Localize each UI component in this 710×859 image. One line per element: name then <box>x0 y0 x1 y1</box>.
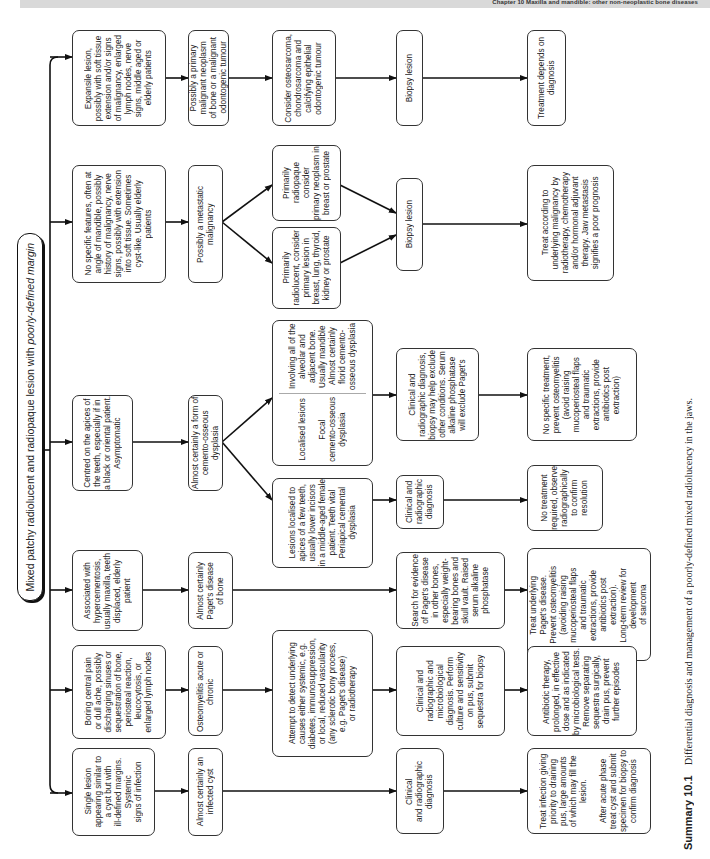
col3-presentation: Associated with hypercementosis, usually… <box>72 550 143 631</box>
col4-branch-periapical: Lesions localised to apices of a few tee… <box>272 478 373 568</box>
col4-florid-investigation: Clinical and radiographic diagnosis, bio… <box>396 348 479 441</box>
col5-branch-radiolucent: Primarily radiolucent, consider primary … <box>272 227 341 309</box>
col4-periapical-investigation: Clinical and radiographic diagnosis <box>396 475 444 529</box>
col4-periapical-management: No treatment required, observe radiograp… <box>527 465 603 531</box>
col4-presentation: Centred on the apices of the teeth, espe… <box>72 395 133 491</box>
col1-2-shared-step: Attempt to detect underlying causes eith… <box>272 630 373 757</box>
root-lesion-box: Mixed patchy radiolucent and radiopaque … <box>17 233 43 601</box>
col5-management: Treat according to underlying malignancy… <box>527 165 614 281</box>
col6-presentation: Expansile lesion, possibly with soft tis… <box>72 30 166 126</box>
figure-caption: Summary 10.1 Differential diagnosis and … <box>678 320 698 850</box>
caption-text: Differential diagnosis and management of… <box>683 398 694 765</box>
col5-presentation: No specific features, often at angle of … <box>72 165 166 283</box>
col1-diagnosis: Almost certainly an infected cyst <box>188 748 223 836</box>
col6-diagnosis: Possibly a primary malignant neoplasm of… <box>188 30 229 126</box>
focal-description: Localised lesions Focal cemento-osseous … <box>298 397 348 462</box>
col1-management: Treat infection giving priority to drain… <box>527 748 651 834</box>
col5-diagnosis: Possibly a metastatic malignancy <box>188 165 223 283</box>
col4-diagnosis: Almost certainly a form of cemento-osseo… <box>188 395 223 491</box>
florid-section: Involving all of the alveolar and adjace… <box>273 321 372 393</box>
col6-investigation: Biopsy lesion <box>396 30 423 126</box>
col5-branch-radiopaque: Primarily radiopaque consider primary ne… <box>272 145 341 221</box>
root-lesion-label: Mixed patchy radiolucent and radiopaque … <box>24 243 37 591</box>
col4-branch-focal-florid: Involving all of the alveolar and adjace… <box>272 320 373 466</box>
col2-investigation: Clinical and radiographic and microbiolo… <box>396 646 505 736</box>
col6-consider: Consider osteosarcoma, chondrosarcoma an… <box>272 30 336 126</box>
col2-diagnosis: Osteomyelitis acute or chronic <box>188 646 223 736</box>
col2-presentation: Boring central pain or dull ache, possib… <box>72 645 166 739</box>
col1-presentation: Single lesion appearing similar to a cys… <box>72 748 155 836</box>
col6-management: Treatment depends on diagnosis <box>527 30 566 126</box>
col3-investigation: Search for evidence of Paget's disease i… <box>396 552 505 629</box>
col2-management: Antibiotic therapy, prolonged, in effect… <box>527 646 637 736</box>
caption-number: Summary 10.1 <box>682 775 694 850</box>
florid-description: Involving all of the alveolar and adjace… <box>288 323 358 390</box>
col3-management: Treat underlying Paget's disease. Preven… <box>527 548 651 661</box>
col5-investigation: Biopsy lesion <box>396 178 423 271</box>
col3-diagnosis: Almost certainly Paget's disease of bone <box>188 552 233 629</box>
focal-section: Localised lesions Focal cemento-osseous … <box>273 394 372 466</box>
col4-florid-management: No specific treatment, prevent osteomyel… <box>527 348 637 441</box>
col1-investigation: Clinical and radiographic diagnosis <box>396 748 444 834</box>
